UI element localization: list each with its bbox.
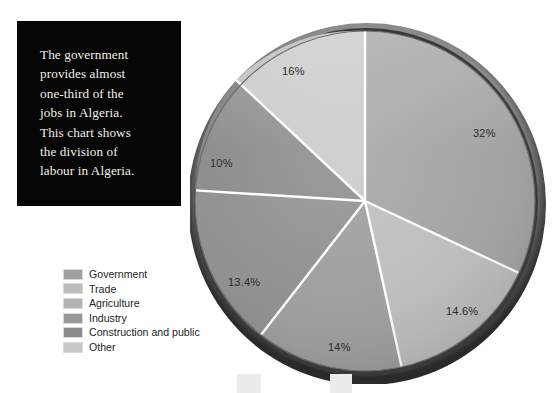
caption-line: jobs in Algeria. [40,103,172,122]
pie-top-sheen [195,31,535,371]
legend-item-industry[interactable]: Industry [63,311,243,326]
legend-label-agriculture: Agriculture [89,298,140,309]
caption-line: labour in Algeria. [40,161,172,180]
legend-swatch-trade [63,283,83,294]
legend-label-trade: Trade [89,284,116,295]
pie-label-trade: 14.6% [446,305,478,317]
figure-root: The government provides almost one-third… [0,0,559,393]
legend-label-industry: Industry [89,313,127,324]
caption-line: one-third of the [40,84,172,103]
legend-item-trade[interactable]: Trade [63,282,243,297]
legend-swatch-industry [63,313,83,324]
scan-artifact [237,374,261,393]
chart-legend: Government Trade Agriculture Industry Co… [63,267,243,355]
pie-label-agriculture: 14% [328,341,351,353]
pie-label-construction: 10% [210,157,233,169]
pie-label-government: 32% [473,127,496,139]
caption-line: This chart shows [40,123,172,142]
legend-swatch-construction [63,327,83,338]
legend-item-construction[interactable]: Construction and public [63,325,243,340]
pie-chart: 32% 14.6% 14% 13.4% 10% 16% [190,12,550,384]
pie-label-other: 16% [282,65,305,77]
legend-swatch-government [63,269,83,280]
legend-label-other: Other [89,342,116,353]
caption-text: The government provides almost one-third… [40,45,172,181]
legend-item-government[interactable]: Government [63,267,243,282]
scan-artifact [330,374,352,393]
caption-line: provides almost [40,64,172,83]
legend-label-construction: Construction and public [89,327,200,338]
caption-box: The government provides almost one-third… [18,22,180,205]
legend-swatch-other [63,342,83,353]
caption-line: the division of [40,142,172,161]
pie-chart-svg: 32% 14.6% 14% 13.4% 10% 16% [190,12,550,384]
caption-line: The government [40,45,172,64]
legend-label-government: Government [89,269,147,280]
legend-item-agriculture[interactable]: Agriculture [63,296,243,311]
legend-swatch-agriculture [63,298,83,309]
legend-item-other[interactable]: Other [63,340,243,355]
